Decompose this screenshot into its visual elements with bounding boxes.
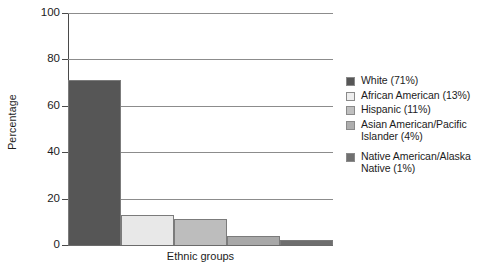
chart-legend: White (71%)African American (13%)Hispani… [346, 74, 497, 177]
legend-item-label: Asian American/Pacific Islander (4%) [361, 118, 497, 143]
bar-chart-figure: Percentage 100806040200 Ethnic groups Wh… [0, 0, 497, 275]
legend-item: Hispanic (11%) [346, 103, 497, 116]
y-axis-tick-label: 100 [24, 7, 60, 19]
y-axis-tick-label: 0 [24, 239, 60, 251]
bar-series [68, 13, 333, 245]
bar [68, 80, 121, 245]
y-axis-tick-labels: 100806040200 [20, 0, 60, 275]
legend-swatch-icon [346, 121, 355, 130]
legend-item-label: White (71%) [361, 74, 418, 87]
x-axis-title: Ethnic groups [68, 250, 333, 262]
plot-area [68, 13, 333, 245]
y-axis-tick-mark [62, 106, 68, 107]
y-axis-tick-mark [62, 199, 68, 200]
legend-item-label: African American (13%) [361, 89, 470, 102]
bar [227, 236, 280, 245]
y-axis-tick-label: 20 [24, 193, 60, 205]
y-axis-tick-mark [62, 13, 68, 14]
legend-item: Asian American/Pacific Islander (4%) [346, 118, 497, 143]
y-axis-tick-mark [62, 152, 68, 153]
x-axis-baseline [68, 245, 333, 246]
legend-swatch-icon [346, 106, 355, 115]
bar [174, 219, 227, 245]
y-axis-title: Percentage [6, 77, 18, 167]
bar [280, 240, 333, 245]
legend-item: White (71%) [346, 74, 497, 87]
legend-item-label: Hispanic (11%) [361, 103, 431, 116]
legend-swatch-icon [346, 153, 355, 162]
y-axis-tick-mark [62, 59, 68, 60]
legend-item: African American (13%) [346, 89, 497, 102]
legend-item: Native American/Alaska Native (1%) [346, 150, 497, 175]
y-axis-tick-label: 80 [24, 53, 60, 65]
legend-swatch-icon [346, 77, 355, 86]
legend-swatch-icon [346, 92, 355, 101]
y-axis-tick-mark [62, 245, 68, 246]
bar [121, 215, 174, 245]
y-axis-tick-label: 60 [24, 100, 60, 112]
y-axis-tick-label: 40 [24, 146, 60, 158]
legend-item-label: Native American/Alaska Native (1%) [361, 150, 497, 175]
